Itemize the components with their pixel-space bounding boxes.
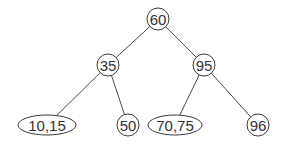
tree-diagram: 60359510,155070,7596 <box>0 0 286 146</box>
tree-node-70-75: 70,75 <box>148 115 202 135</box>
node-label: 60 <box>150 11 167 28</box>
tree-nodes: 60359510,155070,7596 <box>18 8 269 136</box>
tree-node-50: 50 <box>117 114 139 136</box>
node-label: 95 <box>196 57 213 74</box>
tree-edges <box>47 19 258 125</box>
node-label: 96 <box>250 117 267 134</box>
edge-95-to-96 <box>204 65 258 125</box>
tree-node-95: 95 <box>193 54 215 76</box>
node-label: 10,15 <box>28 117 66 134</box>
tree-node-35: 35 <box>97 54 119 76</box>
tree-node-96: 96 <box>247 114 269 136</box>
node-label: 50 <box>120 117 137 134</box>
tree-node-60: 60 <box>147 8 169 30</box>
node-label: 35 <box>100 57 117 74</box>
tree-node-10-15: 10,15 <box>18 115 76 135</box>
node-label: 70,75 <box>156 117 194 134</box>
